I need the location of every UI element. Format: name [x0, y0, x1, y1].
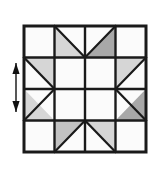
- arrow-head-down-icon: [12, 101, 19, 112]
- quilt-cell-r3c2-base: [55, 89, 86, 121]
- quilt-cell-r3c3-base: [85, 89, 116, 121]
- quilt-cell-r4c1-base: [24, 121, 55, 153]
- quilt-block-diagram: [0, 0, 162, 172]
- quilt-cell-r2c2-base: [55, 58, 86, 90]
- quilt-cell-r1c4-base: [116, 26, 147, 58]
- quilt-cell-r1c1-base: [24, 26, 55, 58]
- vertical-double-arrow: [12, 63, 19, 112]
- quilt-figure: [0, 0, 162, 172]
- arrow-head-up-icon: [12, 63, 19, 74]
- quilt-cell-r4c4-base: [116, 121, 147, 153]
- annotation-layer: [12, 63, 19, 112]
- quilt-cell-r2c3-base: [85, 58, 116, 90]
